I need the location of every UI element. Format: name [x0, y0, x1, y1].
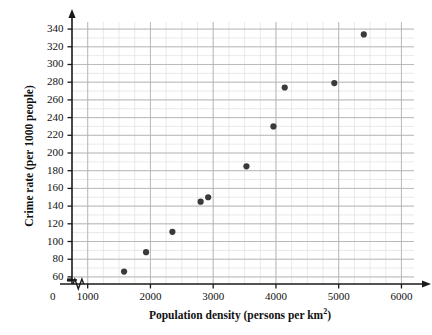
data-point [121, 269, 127, 275]
x-axis-title-base: Population density (persons per km [149, 309, 323, 321]
data-point [361, 31, 367, 37]
scatter-plot-figure [0, 0, 432, 335]
axis-lines [60, 9, 431, 288]
y-tick-label: 120 [24, 217, 64, 229]
x-tick-label: 1000 [63, 290, 113, 302]
data-point [143, 249, 149, 255]
y-tick-label: 240 [24, 111, 64, 123]
y-tick-label: 180 [24, 164, 64, 176]
data-point [205, 194, 211, 200]
origin-label: 0 [50, 290, 56, 302]
x-axis-title-tail: ) [327, 309, 331, 321]
y-tick-label: 340 [24, 22, 64, 34]
grid-major-lines [72, 22, 414, 284]
y-tick-label: 100 [24, 235, 64, 247]
data-point [169, 229, 175, 235]
x-tick-label: 6000 [376, 290, 426, 302]
x-tick-label: 2000 [125, 290, 175, 302]
y-tick-label: 260 [24, 93, 64, 105]
data-point [243, 163, 249, 169]
data-point [331, 80, 337, 86]
y-tick-label: 300 [24, 57, 64, 69]
y-tick-label: 160 [24, 181, 64, 193]
y-tick-label: 220 [24, 128, 64, 140]
tick-marks [68, 29, 402, 288]
x-tick-label: 3000 [188, 290, 238, 302]
x-tick-label: 5000 [314, 290, 364, 302]
y-tick-label: 320 [24, 40, 64, 52]
y-tick-label: 80 [24, 252, 64, 264]
y-tick-label: 280 [24, 75, 64, 87]
x-tick-label: 4000 [251, 290, 301, 302]
data-point [198, 199, 204, 205]
data-point [282, 84, 288, 90]
y-tick-label: 200 [24, 146, 64, 158]
y-tick-label: 140 [24, 199, 64, 211]
data-point [270, 123, 276, 129]
y-tick-label: 60 [24, 270, 64, 282]
x-axis-title: Population density (persons per km2) [60, 307, 420, 321]
